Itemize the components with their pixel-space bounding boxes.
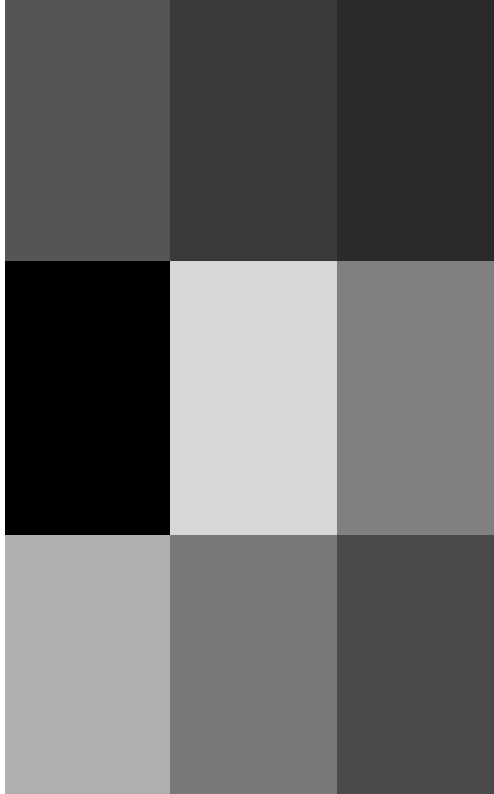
swatch-tile-r1c2: #3a3a3a xyxy=(170,0,337,261)
swatch-canvas: #555555 #3a3a3a #2a2a2a #000000 #d7d7d7 … xyxy=(0,0,494,794)
swatch-grid: #555555 #3a3a3a #2a2a2a #000000 #d7d7d7 … xyxy=(0,0,494,794)
swatch-tile-r2c2: #d7d7d7 xyxy=(170,261,337,535)
swatch-tile-r1c3: #2a2a2a xyxy=(337,0,494,261)
swatch-tile-r3c1: #afafaf xyxy=(5,535,170,794)
swatch-tile-r1c1: #555555 xyxy=(5,0,170,261)
swatch-tile-r3c3: #4a4a4a xyxy=(337,535,494,794)
swatch-tile-r2c1: #000000 xyxy=(5,261,170,535)
swatch-tile-r3c2: #797979 xyxy=(170,535,337,794)
swatch-tile-r2c3: #808080 xyxy=(337,261,494,535)
